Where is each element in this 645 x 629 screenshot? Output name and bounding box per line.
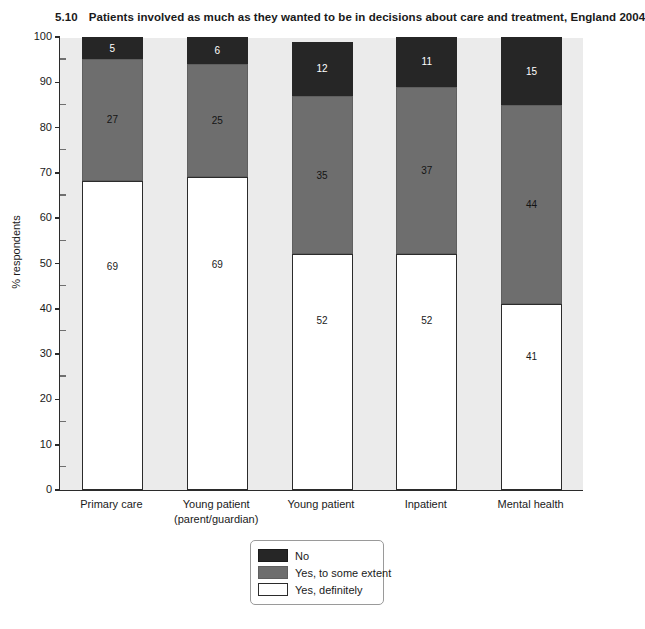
y-tick-label: 30 bbox=[40, 346, 52, 361]
bar-segment-some[interactable]: 37 bbox=[396, 87, 457, 255]
legend-item-no: No bbox=[258, 547, 375, 564]
bar-5[interactable]: 154441 bbox=[501, 37, 562, 490]
y-tick-mark bbox=[55, 489, 60, 491]
bar-value-label: 44 bbox=[526, 199, 537, 210]
bar-value-label: 37 bbox=[421, 165, 432, 176]
y-minor-tick-75 bbox=[60, 149, 66, 150]
plot-inner: 0102030405060708090100527696256912355211… bbox=[60, 38, 583, 490]
y-tick-label: 20 bbox=[40, 391, 52, 406]
bar-value-label: 27 bbox=[107, 114, 118, 125]
y-minor-tick-5 bbox=[60, 466, 66, 467]
bar-value-label: 69 bbox=[107, 261, 118, 272]
y-minor-tick-55 bbox=[60, 240, 66, 241]
legend-swatch-definitely bbox=[258, 583, 288, 596]
bar-2[interactable]: 62569 bbox=[187, 37, 248, 490]
bar-segment-no[interactable]: 15 bbox=[501, 37, 562, 105]
legend: No Yes, to some extent Yes, definitely bbox=[250, 540, 384, 605]
bar-4[interactable]: 113752 bbox=[396, 37, 457, 490]
y-tick-label: 50 bbox=[40, 256, 52, 271]
bar-value-label: 35 bbox=[316, 170, 327, 181]
bar-segment-def[interactable]: 52 bbox=[292, 254, 353, 490]
y-tick-mark bbox=[55, 127, 60, 129]
legend-item-definitely: Yes, definitely bbox=[258, 581, 375, 598]
bar-value-label: 11 bbox=[422, 56, 432, 67]
x-axis-label-3: Young patient bbox=[269, 497, 374, 512]
bar-value-label: 12 bbox=[316, 63, 327, 74]
legend-swatch-no bbox=[258, 549, 288, 562]
bar-segment-some[interactable]: 44 bbox=[501, 105, 562, 304]
bar-value-label: 25 bbox=[212, 115, 223, 126]
y-tick-mark bbox=[55, 217, 60, 219]
bar-value-label: 52 bbox=[421, 315, 432, 326]
bar-segment-some[interactable]: 35 bbox=[292, 96, 353, 255]
plot-area: 0102030405060708090100527696256912355211… bbox=[59, 38, 583, 491]
x-axis-label-2: Young patient (parent/guardian) bbox=[164, 497, 269, 526]
legend-item-some-extent: Yes, to some extent bbox=[258, 564, 375, 581]
chart-title: 5.10 Patients involved as much as they w… bbox=[55, 11, 600, 29]
chart-title-number: 5.10 bbox=[55, 11, 78, 23]
bar-segment-def[interactable]: 69 bbox=[187, 177, 248, 490]
bar-segment-def[interactable]: 69 bbox=[82, 181, 143, 490]
bar-segment-no[interactable]: 6 bbox=[187, 37, 248, 64]
legend-label-some-extent: Yes, to some extent bbox=[295, 567, 391, 579]
bar-value-label: 6 bbox=[214, 45, 220, 56]
bar-value-label: 15 bbox=[526, 66, 537, 77]
y-minor-tick-15 bbox=[60, 421, 66, 422]
y-minor-tick-45 bbox=[60, 285, 66, 286]
y-minor-tick-85 bbox=[60, 104, 66, 105]
y-minor-tick-65 bbox=[60, 194, 66, 195]
x-axis-label-1: Primary care bbox=[59, 497, 164, 512]
bar-value-label: 41 bbox=[526, 351, 537, 362]
y-tick-mark bbox=[55, 308, 60, 310]
y-tick-mark bbox=[55, 172, 60, 174]
bar-segment-some[interactable]: 25 bbox=[187, 64, 248, 177]
y-axis-label: % respondents bbox=[10, 192, 22, 312]
bar-1[interactable]: 52769 bbox=[82, 37, 143, 490]
y-tick-mark bbox=[55, 353, 60, 355]
bar-value-label: 52 bbox=[316, 315, 327, 326]
x-axis-label-4: Inpatient bbox=[373, 497, 478, 512]
bar-segment-no[interactable]: 11 bbox=[396, 37, 457, 87]
y-tick-label: 40 bbox=[40, 301, 52, 316]
y-minor-tick-95 bbox=[60, 58, 66, 59]
y-tick-mark bbox=[55, 399, 60, 401]
legend-label-no: No bbox=[295, 550, 309, 562]
legend-swatch-some-extent bbox=[258, 566, 288, 579]
y-minor-tick-35 bbox=[60, 330, 66, 331]
legend-label-definitely: Yes, definitely bbox=[295, 584, 362, 596]
bar-segment-some[interactable]: 27 bbox=[82, 59, 143, 180]
bar-value-label: 69 bbox=[212, 259, 223, 270]
y-tick-label: 60 bbox=[40, 210, 52, 225]
bar-3[interactable]: 123552 bbox=[292, 37, 353, 490]
bar-segment-no[interactable]: 5 bbox=[82, 37, 143, 59]
y-tick-label: 100 bbox=[34, 29, 52, 44]
chart-title-text: Patients involved as much as they wanted… bbox=[89, 11, 645, 23]
y-tick-label: 70 bbox=[40, 165, 52, 180]
bar-value-label: 5 bbox=[110, 43, 116, 54]
y-tick-mark bbox=[55, 444, 60, 446]
y-tick-label: 0 bbox=[46, 482, 52, 497]
y-tick-label: 80 bbox=[40, 120, 52, 135]
x-axis-label-5: Mental health bbox=[478, 497, 583, 512]
bar-segment-def[interactable]: 41 bbox=[501, 304, 562, 490]
y-tick-mark bbox=[55, 36, 60, 38]
y-tick-mark bbox=[55, 263, 60, 265]
y-minor-tick-25 bbox=[60, 375, 66, 376]
bar-segment-def[interactable]: 52 bbox=[396, 254, 457, 490]
y-tick-mark bbox=[55, 82, 60, 84]
bar-segment-no[interactable]: 12 bbox=[292, 42, 353, 96]
y-tick-label: 90 bbox=[40, 74, 52, 89]
y-tick-label: 10 bbox=[40, 437, 52, 452]
